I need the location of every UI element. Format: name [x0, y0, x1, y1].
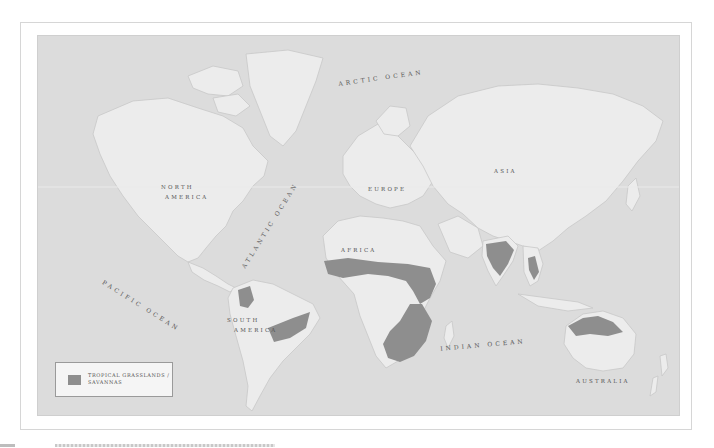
japan: [626, 178, 640, 211]
label-africa: AFRICA: [341, 247, 376, 253]
new-zealand: [660, 354, 668, 376]
label-north-america-2: AMERICA: [165, 194, 209, 200]
indonesia: [518, 294, 593, 311]
label-north-america-1: NORTH: [161, 184, 194, 190]
legend-swatch-savanna: [68, 375, 81, 385]
label-australia: AUSTRALIA: [576, 378, 630, 384]
central-america: [188, 262, 236, 292]
page-edge-rule: [55, 444, 275, 447]
map-legend: TROPICAL GRASSLANDS / SAVANNAS: [55, 362, 173, 397]
label-asia: ASIA: [494, 168, 517, 174]
arctic-islands: [188, 66, 243, 96]
label-europe: EUROPE: [368, 186, 406, 192]
greenland: [246, 50, 323, 146]
north-america: [93, 98, 268, 262]
world-map: NORTH AMERICA SOUTH AMERICA EUROPE ASIA …: [37, 35, 680, 416]
legend-label-savanna: TROPICAL GRASSLANDS / SAVANNAS: [88, 372, 172, 386]
label-south-america-2: AMERICA: [234, 327, 278, 333]
world-map-svg: [38, 36, 680, 416]
page-edge-mark: [0, 444, 15, 447]
label-south-america-1: SOUTH: [227, 317, 259, 323]
